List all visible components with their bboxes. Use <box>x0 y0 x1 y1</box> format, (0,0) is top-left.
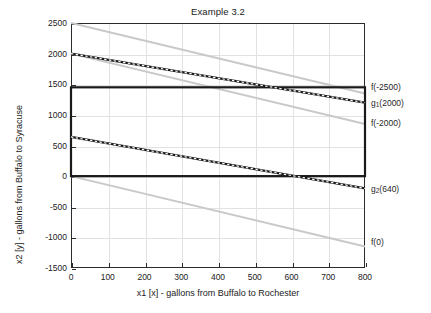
chart-figure: Example 3.2 x1 [x] - gallons from Buffal… <box>0 0 431 313</box>
annot-f-0: f(0) <box>371 237 384 247</box>
annot-f-2500: f(-2500) <box>371 82 401 92</box>
objective-line-f(-2500) <box>71 23 365 93</box>
annot-g1: g1(2000) <box>371 98 404 108</box>
x-axis-label: x1 [x] - gallons from Buffalo to Rochest… <box>71 288 365 298</box>
y-tick-label: 500 <box>24 141 67 151</box>
x-tick-label: 700 <box>321 272 335 282</box>
y-tick-label: -500 <box>24 202 67 212</box>
y-tick-label: 2000 <box>24 49 67 59</box>
y-axis-tick <box>72 269 76 270</box>
x-tick-label: 600 <box>284 272 298 282</box>
x-tick-label: 300 <box>174 272 188 282</box>
x-tick-label: 400 <box>211 272 225 282</box>
objective-line-f(-2000) <box>71 54 365 124</box>
objective-line-f(0) <box>71 176 365 246</box>
annot-g2: g2(640) <box>371 184 399 194</box>
y-tick-label: 1000 <box>24 110 67 120</box>
y-tick-label: -1500 <box>24 263 67 273</box>
x-tick-label: 0 <box>69 272 74 282</box>
annot-f-2000: f(-2000) <box>371 118 401 128</box>
x-tick-label: 100 <box>101 272 115 282</box>
y-tick-label: 2500 <box>24 18 67 28</box>
x-axis-tick <box>366 263 367 267</box>
chart-data-layer <box>71 23 365 268</box>
y-tick-label: -1000 <box>24 232 67 242</box>
y-tick-label: 0 <box>24 171 67 181</box>
y-tick-label: 1500 <box>24 79 67 89</box>
x-tick-label: 200 <box>137 272 151 282</box>
chart-title: Example 3.2 <box>71 6 365 17</box>
x-tick-label: 500 <box>248 272 262 282</box>
x-tick-label: 800 <box>358 272 372 282</box>
y-axis-label: x2 [y] - gallons from Buffalo to Syracus… <box>14 105 24 264</box>
